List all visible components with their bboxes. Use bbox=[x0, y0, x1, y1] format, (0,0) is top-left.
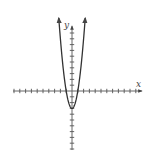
parabola-graph bbox=[0, 0, 152, 164]
y-axis bbox=[70, 26, 74, 150]
x-axis-label: x bbox=[136, 80, 141, 89]
y-axis-label: y bbox=[64, 21, 69, 30]
